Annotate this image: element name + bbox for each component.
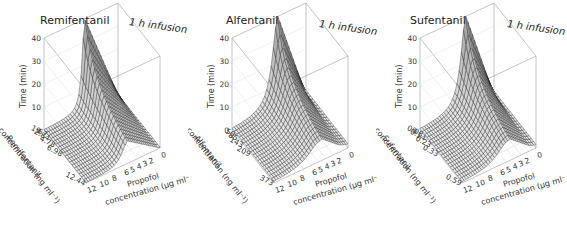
svg-text:40: 40 xyxy=(219,34,229,43)
svg-text:Time (min): Time (min) xyxy=(19,65,28,109)
surface-plot: 010203040Time (min)5085143209373Alfentan… xyxy=(188,0,377,227)
svg-text:10: 10 xyxy=(31,103,41,112)
svg-text:10: 10 xyxy=(219,103,229,112)
svg-text:20: 20 xyxy=(31,80,41,89)
chart-title: Remifentanil xyxy=(40,14,109,27)
chart-title: Alfentanil xyxy=(226,14,278,27)
svg-text:8: 8 xyxy=(111,173,118,183)
svg-text:Time (min): Time (min) xyxy=(207,65,216,109)
svg-text:12: 12 xyxy=(274,184,286,195)
svg-text:2: 2 xyxy=(335,156,342,166)
svg-text:30: 30 xyxy=(407,57,417,66)
svg-text:0: 0 xyxy=(536,150,543,160)
svg-text:30: 30 xyxy=(219,57,229,66)
chart-title: Sufentanil xyxy=(410,14,466,27)
svg-text:30: 30 xyxy=(31,57,41,66)
svg-text:10: 10 xyxy=(407,103,417,112)
svg-text:12: 12 xyxy=(462,184,474,195)
z-axis: 010203040Time (min) xyxy=(19,34,41,135)
svg-text:2: 2 xyxy=(147,156,154,166)
z-axis: 010203040Time (min) xyxy=(395,34,417,135)
panel-alfentanil: 010203040Time (min)5085143209373Alfentan… xyxy=(188,0,377,227)
svg-text:2: 2 xyxy=(523,156,530,166)
panel-remifentanil: 010203040Time (min)1.672.844.786.9812.44… xyxy=(0,0,189,227)
svg-text:5: 5 xyxy=(129,165,136,175)
svg-text:5: 5 xyxy=(317,165,324,175)
svg-text:12: 12 xyxy=(86,184,98,195)
panel-sufentanil: 010203040Time (min)0.080.140.230.330.59S… xyxy=(376,0,565,227)
svg-text:Time (min): Time (min) xyxy=(395,65,404,109)
svg-text:20: 20 xyxy=(407,80,417,89)
svg-text:10: 10 xyxy=(474,178,486,189)
svg-text:8: 8 xyxy=(299,173,306,183)
svg-text:5: 5 xyxy=(505,165,512,175)
svg-text:8: 8 xyxy=(487,173,494,183)
surface-plot: 010203040Time (min)1.672.844.786.9812.44… xyxy=(0,0,189,227)
svg-text:0: 0 xyxy=(160,150,167,160)
z-axis: 010203040Time (min) xyxy=(207,34,229,135)
svg-text:10: 10 xyxy=(98,178,110,189)
svg-text:40: 40 xyxy=(31,34,41,43)
surface-plot: 010203040Time (min)0.080.140.230.330.59S… xyxy=(376,0,565,227)
svg-text:20: 20 xyxy=(219,80,229,89)
svg-text:0: 0 xyxy=(348,150,355,160)
svg-text:10: 10 xyxy=(286,178,298,189)
svg-text:40: 40 xyxy=(407,34,417,43)
surface-mesh xyxy=(44,20,160,182)
